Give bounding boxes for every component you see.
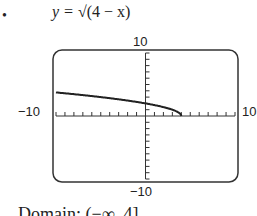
domain-text: Domain: (−∞, 4] bbox=[18, 204, 138, 216]
graph-window bbox=[0, 0, 257, 216]
